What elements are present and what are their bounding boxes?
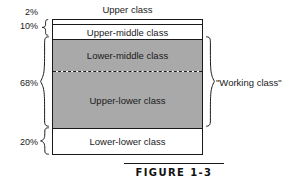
brace-working-class-right [205, 36, 216, 127]
percent-label-lower-lower-class: 20% [8, 137, 38, 147]
brace-upper-middle-class [41, 19, 49, 36]
band-lower-middle-class: Lower-middle class [53, 40, 202, 71]
caption-rule [124, 163, 224, 164]
figure-social-class-pyramid: 2% 10% 68% 20% Upper class Upper-middle … [0, 0, 303, 184]
stacked-class-bar: Upper-middle class Lower-middle class Up… [52, 19, 203, 155]
band-label-upper-lower-class: Upper-lower class [89, 95, 165, 106]
band-label-lower-lower-class: Lower-lower class [89, 136, 165, 147]
band-label-upper-middle-class: Upper-middle class [87, 27, 168, 38]
brace-working-class-left [39, 36, 50, 127]
percent-label-upper-class: 2% [8, 7, 38, 17]
percent-label-working-class: 68% [8, 78, 38, 88]
band-label-upper-class: Upper class [52, 4, 203, 15]
band-label-lower-middle-class: Lower-middle class [87, 50, 168, 61]
label-working-class: "Working class" [216, 77, 282, 88]
caption-text: FIGURE 1-3 [119, 167, 229, 178]
band-upper-middle-class: Upper-middle class [53, 25, 202, 40]
brace-lower-lower-class [39, 127, 50, 155]
figure-caption: FIGURE 1-3 [119, 163, 229, 178]
band-lower-lower-class: Lower-lower class [53, 129, 202, 154]
band-upper-lower-class: Upper-lower class [53, 72, 202, 129]
percent-label-upper-middle-class: 10% [8, 21, 38, 31]
